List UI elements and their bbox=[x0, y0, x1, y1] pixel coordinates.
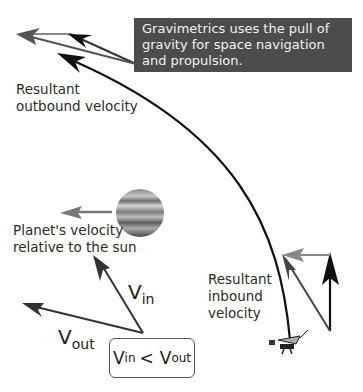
inbound-velocity-label: Resultant inbound velocity bbox=[208, 271, 272, 322]
outbound-vector-arrowhead bbox=[68, 34, 92, 48]
v-in-arrowhead bbox=[93, 255, 110, 281]
planet-velocity-label: Planet's velocity relative to the sun bbox=[13, 222, 137, 256]
velocity-inequality-box: Vin < Vout bbox=[109, 338, 195, 378]
caption-line: and propulsion. bbox=[142, 53, 344, 69]
v-out-label: Vout bbox=[58, 325, 95, 352]
caption-line: gravity for space navigation bbox=[142, 37, 344, 53]
outbound-resultant-arrowhead bbox=[16, 28, 40, 45]
caption-line: Gravimetrics uses the pull of bbox=[142, 21, 344, 37]
outbound-velocity-label: Resultant outbound velocity bbox=[16, 81, 138, 115]
v-in-label: Vin bbox=[128, 280, 154, 307]
caption-box: Gravimetrics uses the pull of gravity fo… bbox=[134, 18, 352, 72]
trajectory-arrowhead bbox=[57, 53, 86, 73]
v-out-arrowhead bbox=[22, 303, 44, 317]
